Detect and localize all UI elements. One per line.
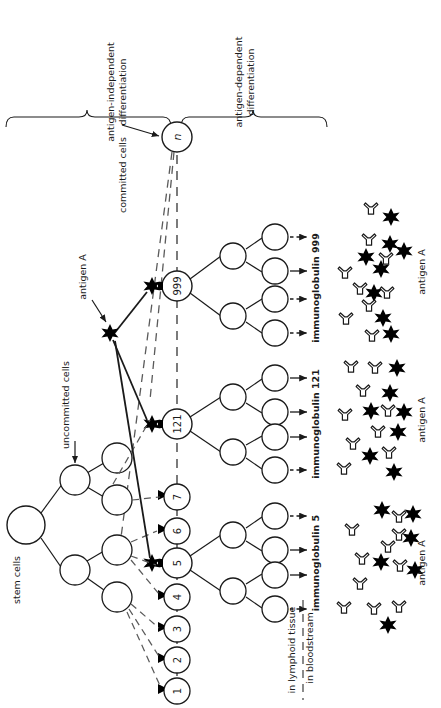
uncommitted-cell xyxy=(60,465,90,495)
plasma-cell xyxy=(262,258,288,284)
plasma-cell xyxy=(262,399,288,425)
diagram-svg: antigen-independent differentiation anti… xyxy=(0,0,441,708)
uncommitted-cell xyxy=(102,535,132,565)
figure-canvas: antigen-independent differentiation anti… xyxy=(0,0,441,708)
cloud-5-antigen-label: antigen A xyxy=(416,540,427,586)
plasma-cell xyxy=(262,365,288,391)
bracket-label-antigen-dependent-line1: antigen-dependent xyxy=(233,36,244,127)
plasma-cell xyxy=(262,503,288,529)
uncommitted-cell xyxy=(102,485,132,515)
committed-cell-4: 4 xyxy=(158,584,190,610)
committed-cells-pointer-arrow xyxy=(122,125,159,136)
free-antigen-icon xyxy=(101,324,118,342)
stem-cell-tree xyxy=(7,443,132,612)
committed-cell-121-label: 121 xyxy=(172,414,183,433)
committed-cell-6-label: 6 xyxy=(172,528,183,534)
committed-cells-column: 7 6 4 3 2 1 xyxy=(158,484,190,704)
cloud-999-antigen-label: antigen A xyxy=(416,249,427,295)
bracket-label-antigen-dependent-line2: differentiation xyxy=(245,48,256,115)
plasma-cell xyxy=(262,286,288,312)
committed-cell-3-label: 3 xyxy=(172,626,183,632)
label-antigen-a-pointer: antigen A xyxy=(77,254,88,300)
committed-cell-121: 121 xyxy=(143,409,192,439)
intermediate-cell xyxy=(220,439,246,465)
label-uncommitted-cells: uncommitted cells xyxy=(60,361,71,449)
committed-cell-2: 2 xyxy=(158,647,190,673)
intermediate-cell xyxy=(220,243,246,269)
cloud-5: antigen A xyxy=(337,501,427,634)
clone-999-output-arrows xyxy=(290,237,307,333)
intermediate-cell xyxy=(220,578,246,604)
antigen-a-pointer-arrow xyxy=(92,300,106,322)
intermediate-cell xyxy=(220,522,246,548)
label-committed-cells: committed cells xyxy=(117,137,128,213)
committed-cell-2-label: 2 xyxy=(172,657,183,663)
clone-999: 999 immunoglobulin 999 xyxy=(143,224,321,346)
clone-5-output-label: immunoglobulin 5 xyxy=(310,515,321,611)
committed-cell-6: 6 xyxy=(158,518,190,544)
antigen-binding-lines xyxy=(113,292,150,558)
bracket-antigen-independent xyxy=(6,110,171,127)
clone-121-output-arrows xyxy=(290,378,307,470)
receptor-icon xyxy=(158,590,164,600)
committed-cell-4-label: 4 xyxy=(172,594,183,600)
clone-121: 121 immunoglobulin 121 xyxy=(143,365,321,483)
receptor-icon xyxy=(158,622,164,632)
bracket-label-antigen-independent-line2: differentiation xyxy=(117,58,128,125)
cloud-121-antigen-label: antigen A xyxy=(416,397,427,443)
receptor-icon xyxy=(158,684,164,694)
label-in-lymphoid-tissue: in lymphoid tissue xyxy=(286,606,297,693)
committed-cell-7: 7 xyxy=(158,484,190,510)
plasma-cell xyxy=(262,457,288,483)
label-stem-cells: stem cells xyxy=(11,556,22,604)
committed-cell-5: 5 xyxy=(143,548,192,578)
receptor-icon xyxy=(158,524,164,534)
plasma-cell xyxy=(262,596,288,622)
committed-cell-1-label: 1 xyxy=(172,688,183,694)
cloud-999: antigen A xyxy=(338,203,427,343)
cloud-121: antigen A xyxy=(337,359,427,481)
committed-cell-5-label: 5 xyxy=(172,560,183,566)
intermediate-cell xyxy=(220,303,246,329)
committed-cell-n: n xyxy=(162,122,192,152)
committed-cell-3: 3 xyxy=(158,616,190,642)
clone-999-output-label: immunoglobulin 999 xyxy=(310,233,321,343)
stem-cell xyxy=(7,506,45,544)
committed-cell-1: 1 xyxy=(158,678,190,704)
bracket-label-antigen-independent-line1: antigen-independent xyxy=(105,42,116,142)
committed-cell-n-label: n xyxy=(171,133,184,140)
plasma-cell xyxy=(262,562,288,588)
plasma-cell xyxy=(262,320,288,346)
uncommitted-cell xyxy=(60,555,90,585)
receptor-icon xyxy=(158,490,164,500)
uncommitted-cell xyxy=(102,582,132,612)
clone-5-output-arrows xyxy=(290,516,307,609)
receptor-icon xyxy=(158,653,164,663)
label-in-bloodstream: in bloodstream xyxy=(304,612,315,683)
intermediate-cell xyxy=(220,384,246,410)
committed-cell-999: 999 xyxy=(143,271,192,301)
plasma-cell xyxy=(262,537,288,563)
clone-121-output-label: immunoglobulin 121 xyxy=(310,369,321,479)
plasma-cell xyxy=(262,224,288,250)
committed-cell-7-label: 7 xyxy=(172,494,183,500)
committed-cell-999-label: 999 xyxy=(172,276,183,295)
plasma-cell xyxy=(262,424,288,450)
